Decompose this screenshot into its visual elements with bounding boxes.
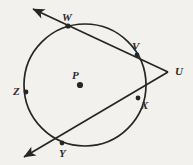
point-marker-x	[136, 96, 141, 101]
point-marker-v	[135, 53, 140, 58]
center-point-marker-p	[77, 82, 83, 88]
geometry-figure: W V U X Y Z P	[0, 0, 193, 165]
point-label-z: Z	[13, 86, 20, 97]
circle-p	[24, 24, 146, 146]
secant-line-wvu	[33, 9, 168, 72]
point-marker-z	[24, 90, 29, 95]
point-label-w: W	[62, 12, 72, 23]
point-label-y: Y	[59, 148, 66, 159]
point-label-v: V	[132, 41, 139, 52]
point-marker-w	[65, 23, 70, 28]
point-label-x: X	[141, 100, 148, 111]
figure-canvas	[0, 0, 193, 165]
point-label-u: U	[175, 66, 183, 77]
point-marker-y	[60, 141, 65, 146]
center-label-p: P	[72, 70, 79, 81]
